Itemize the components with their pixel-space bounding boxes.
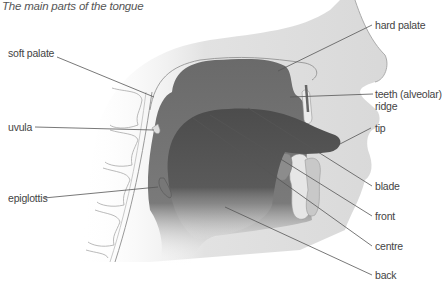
label-epiglottis: epiglottis bbox=[8, 192, 47, 204]
label-blade: blade bbox=[375, 180, 400, 192]
label-hard-palate: hard palate bbox=[375, 19, 425, 31]
label-uvula: uvula bbox=[8, 121, 32, 133]
label-centre: centre bbox=[375, 240, 403, 252]
label-front: front bbox=[375, 210, 395, 222]
label-tip: tip bbox=[375, 122, 386, 134]
label-teeth-ridge-line1: teeth (alveolar) bbox=[375, 88, 442, 100]
label-soft-palate: soft palate bbox=[8, 47, 54, 59]
label-teeth-ridge-line2: ridge bbox=[375, 100, 397, 112]
label-back: back bbox=[375, 269, 396, 281]
